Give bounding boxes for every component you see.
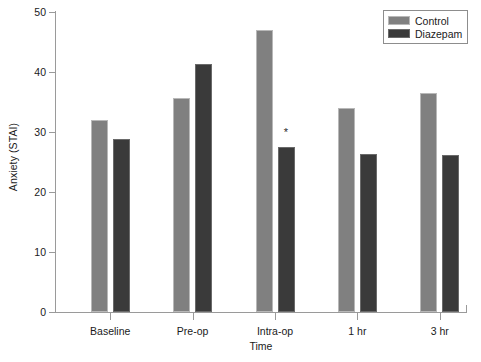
legend-item-diazepam: Diazepam [388,27,462,40]
bar-diazepam-baseline [113,139,130,312]
y-axis-line [55,11,56,313]
y-axis-tick-label: 50 [34,6,46,18]
x-axis-tick-mark [440,313,441,320]
x-axis-tick-mark [193,313,194,320]
y-axis-tick-label: 30 [34,126,46,138]
x-axis-endcap [466,305,467,313]
plot-area: 01020304050 BaselinePre-opIntra-op1 hr3 … [55,11,467,313]
y-axis-tick-mark [49,192,55,193]
significance-marker: * [284,127,288,138]
x-axis-tick-mark [110,313,111,320]
y-axis-title: Anxiety (STAI) [2,0,24,313]
bar-diazepam-1-hr [360,154,377,312]
bar-control-1-hr [338,108,355,312]
y-axis-tick-label: 20 [34,186,46,198]
bar-diazepam-pre-op [195,64,212,312]
bar-control-3-hr [420,93,437,312]
y-axis-tick-mark [49,72,55,73]
y-axis-tick-mark [49,12,55,13]
chart-figure: Anxiety (STAI) 01020304050 BaselinePre-o… [0,0,481,362]
x-axis-tick-label: Baseline [90,325,130,337]
legend-label-diazepam: Diazepam [415,28,462,40]
x-axis-line [55,312,467,313]
x-axis-tick-label: Intra-op [257,325,293,337]
legend-label-control: Control [415,15,449,27]
y-axis-tick-mark [49,252,55,253]
bar-control-baseline [91,120,108,312]
y-axis-tick-mark [49,132,55,133]
x-axis-title: Time [55,340,467,352]
y-axis-tick-mark [49,312,55,313]
y-axis-tick-label: 0 [40,306,46,318]
x-axis-tick-label: 1 hr [348,325,366,337]
bar-diazepam-3-hr [442,155,459,312]
bar-control-intra-op [256,30,273,312]
y-axis-title-text: Anxiety (STAI) [7,122,19,190]
y-axis-tick-label: 40 [34,66,46,78]
x-axis-tick-label: Pre-op [177,325,209,337]
x-axis-tick-mark [275,313,276,320]
bar-control-pre-op [173,98,190,312]
y-axis-tick-label: 10 [34,246,46,258]
bar-diazepam-intra-op [278,147,295,312]
x-axis-tick-mark [357,313,358,320]
legend: Control Diazepam [383,10,468,44]
legend-swatch-diazepam [388,29,410,38]
legend-item-control: Control [388,14,462,27]
x-axis-tick-label: 3 hr [431,325,449,337]
legend-swatch-control [388,16,410,25]
